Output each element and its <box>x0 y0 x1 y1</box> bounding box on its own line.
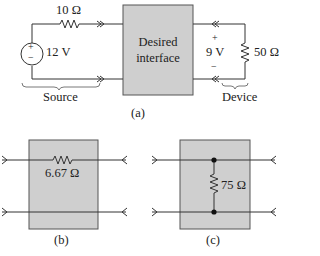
device-plus-sign: + <box>212 33 218 43</box>
source-brace <box>22 83 100 90</box>
caption-b: (b) <box>54 234 69 247</box>
source-voltage-label: 12 V <box>46 46 70 59</box>
device-resistor-label: 50 Ω <box>254 46 279 59</box>
shunt-resistor-label: 75 Ω <box>221 179 246 192</box>
junction-dot-top <box>211 157 216 162</box>
source-resistor-label: 10 Ω <box>56 4 81 17</box>
caption-c: (c) <box>206 234 220 247</box>
device-minus-sign: − <box>211 62 217 72</box>
source-minus-sign: − <box>28 53 34 63</box>
interface-box-b <box>29 140 98 229</box>
interface-label-line1: Desired <box>123 35 193 51</box>
device-brace <box>222 83 248 89</box>
source-plus-sign: + <box>28 42 34 52</box>
resistor-10-ohm-icon <box>60 20 79 28</box>
resistor-50-ohm-icon <box>241 43 249 62</box>
series-resistor-label: 6.67 Ω <box>45 167 79 180</box>
device-voltage-label: 9 V <box>206 46 224 59</box>
caption-a: (a) <box>131 107 145 120</box>
interface-label-line2: interface <box>123 51 193 67</box>
source-top-wire <box>32 20 123 43</box>
interface-label: Desired interface <box>123 35 193 66</box>
junction-dot-bottom <box>211 209 216 214</box>
source-bottom-wire <box>32 66 123 82</box>
shunt-network-wires <box>152 156 276 216</box>
source-label: Source <box>43 91 78 104</box>
device-label: Device <box>222 91 257 104</box>
